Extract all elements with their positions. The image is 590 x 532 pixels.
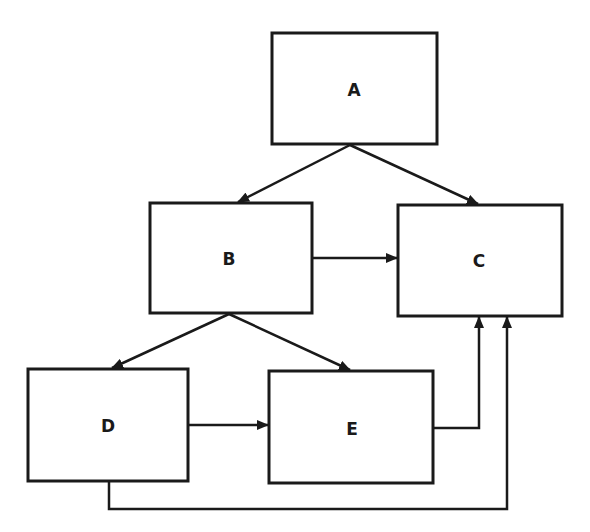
node-a-label: A: [347, 80, 361, 100]
edge-a-b: [238, 145, 350, 202]
node-d-label: D: [101, 416, 115, 436]
node-b-label: B: [223, 249, 236, 269]
node-d: D: [28, 369, 188, 481]
node-e: E: [269, 371, 433, 483]
node-b: B: [150, 203, 312, 313]
flowchart-diagram: A B C D E: [0, 0, 590, 532]
edge-e-c: [434, 317, 479, 428]
edge-b-d: [112, 314, 229, 368]
node-c-label: C: [473, 251, 485, 271]
node-a: A: [272, 33, 437, 144]
node-c: C: [398, 205, 562, 316]
node-e-label: E: [346, 419, 358, 439]
edge-b-e: [229, 314, 350, 370]
edge-a-c: [350, 145, 478, 204]
